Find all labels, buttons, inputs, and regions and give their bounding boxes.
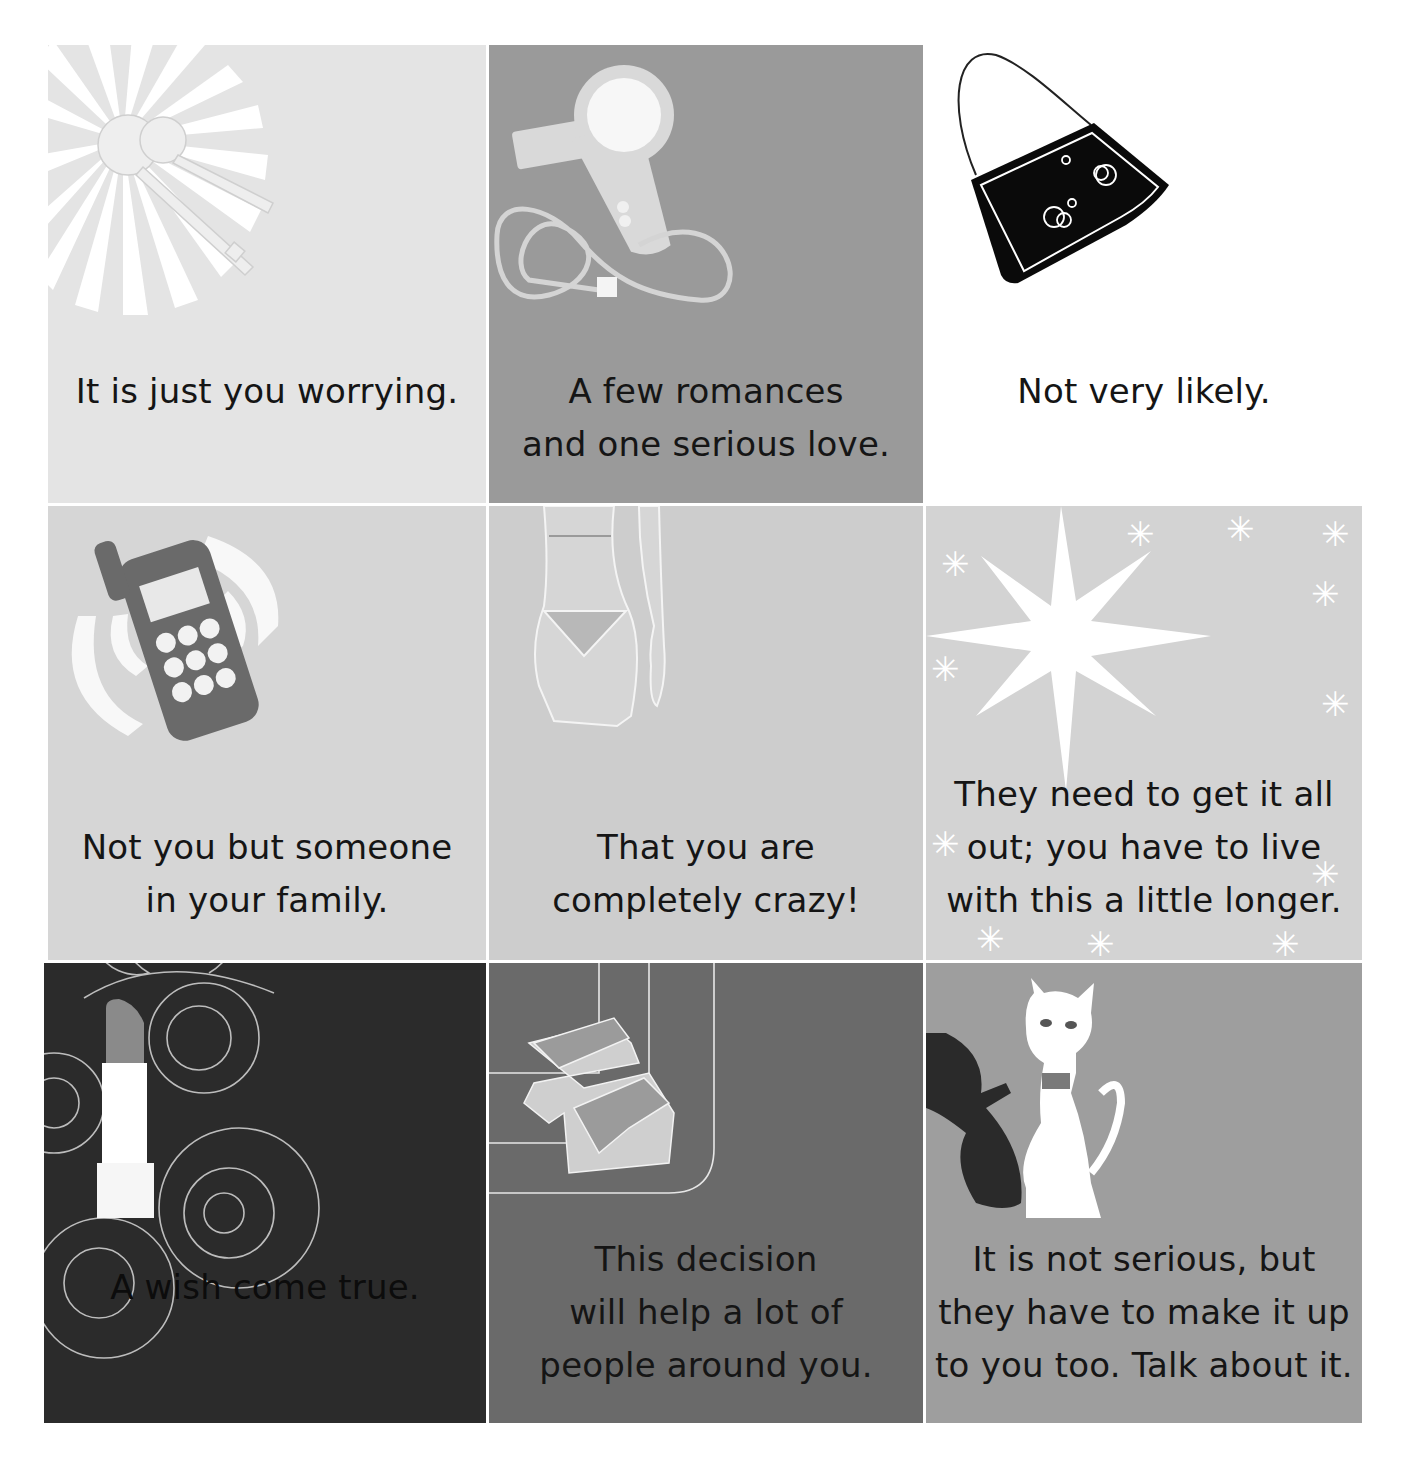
lipstick-swirls-icon bbox=[44, 963, 486, 1423]
answer-card-grid: It is just you worrying. A few romances … bbox=[44, 45, 1362, 1423]
tile-keys: It is just you worrying. bbox=[48, 45, 486, 503]
tile-body: That you are completely crazy! bbox=[489, 506, 923, 960]
tile-lipstick: A wish come true. bbox=[44, 963, 486, 1423]
handbag-icon bbox=[926, 45, 1362, 503]
answer-text: Not you but someone in your family. bbox=[48, 821, 486, 927]
svg-text:✳: ✳ bbox=[1321, 514, 1350, 554]
answer-text: They need to get it all out; you have to… bbox=[926, 768, 1362, 927]
answer-text: That you are completely crazy! bbox=[489, 821, 923, 927]
tile-hair-dryer: A few romances and one serious love. bbox=[489, 45, 923, 503]
svg-text:✳: ✳ bbox=[941, 544, 970, 584]
answer-text: It is not serious, but they have to make… bbox=[926, 1233, 1362, 1392]
tile-phone: Not you but someone in your family. bbox=[48, 506, 486, 960]
answer-text: A few romances and one serious love. bbox=[489, 365, 923, 471]
tile-cat: It is not serious, but they have to make… bbox=[926, 963, 1362, 1423]
tile-star: ✳✳✳ ✳✳✳ ✳✳✳ ✳✳✳ They need to get it all … bbox=[926, 506, 1362, 960]
svg-text:✳: ✳ bbox=[1271, 924, 1300, 960]
svg-text:✳: ✳ bbox=[1311, 574, 1340, 614]
svg-text:✳: ✳ bbox=[931, 649, 960, 689]
svg-text:✳: ✳ bbox=[1126, 514, 1155, 554]
answer-text: It is just you worrying. bbox=[48, 365, 486, 418]
answer-text: Not very likely. bbox=[926, 365, 1362, 418]
svg-text:✳: ✳ bbox=[1321, 684, 1350, 724]
tile-sandal: This decision will help a lot of people … bbox=[489, 963, 923, 1423]
keys-sunburst-icon bbox=[48, 45, 486, 503]
svg-text:✳: ✳ bbox=[1086, 924, 1115, 960]
svg-text:✳: ✳ bbox=[1226, 509, 1255, 549]
answer-text: A wish come true. bbox=[44, 1261, 486, 1314]
answer-text: This decision will help a lot of people … bbox=[489, 1233, 923, 1392]
tile-handbag: Not very likely. bbox=[926, 45, 1362, 503]
